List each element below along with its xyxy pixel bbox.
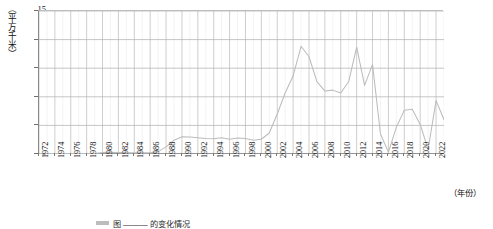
x-tick-label: 2004: [295, 142, 304, 158]
x-tick-label: 2000: [264, 142, 273, 158]
x-tick-mark: [387, 153, 388, 156]
x-tick-label: 1976: [73, 142, 82, 158]
x-tick-label: 2012: [359, 142, 368, 158]
x-tick-label: 2016: [391, 142, 400, 158]
x-tick-label: 2006: [311, 142, 320, 158]
figure-caption-text: 图 ——— 的变化情况: [113, 220, 190, 229]
chart-figure: （平方千米） 15 12 9 6 3 0 1972197419761978198…: [0, 0, 493, 229]
x-tick-label: 1984: [136, 142, 145, 158]
x-tick-mark: [38, 153, 39, 156]
chart-canvas: [39, 11, 444, 154]
x-tick-label: 1996: [232, 142, 241, 158]
x-tick-mark: [102, 153, 103, 156]
x-tick-mark: [340, 153, 341, 156]
x-tick-mark: [54, 153, 55, 156]
legend-swatch: [96, 221, 109, 225]
x-tick-mark: [229, 153, 230, 156]
x-tick-mark: [197, 153, 198, 156]
x-tick-label: 1980: [105, 142, 114, 158]
x-tick-mark: [165, 153, 166, 156]
x-tick-mark: [308, 153, 309, 156]
x-tick-label: 1998: [248, 142, 257, 158]
x-tick-label: 2002: [279, 142, 288, 158]
x-tick-label: 2010: [343, 142, 352, 158]
x-tick-label: 1994: [216, 142, 225, 158]
x-tick-mark: [276, 153, 277, 156]
x-tick-mark: [356, 153, 357, 156]
gridlines-horizontal: [39, 11, 444, 154]
x-tick-mark: [324, 153, 325, 156]
x-tick-label: 2008: [327, 142, 336, 158]
x-axis-title: （年份）: [449, 186, 481, 198]
x-tick-mark: [181, 153, 182, 156]
x-tick-mark: [244, 153, 245, 156]
x-tick-label: 2022: [438, 142, 447, 158]
x-tick-mark: [149, 153, 150, 156]
x-tick-mark: [403, 153, 404, 156]
plot-area: [38, 10, 443, 153]
x-tick-mark: [372, 153, 373, 156]
x-tick-mark: [133, 153, 134, 156]
x-tick-label: 1990: [184, 142, 193, 158]
x-tick-label: 2018: [406, 142, 415, 158]
figure-caption: 图 ——— 的变化情况: [96, 217, 396, 229]
x-tick-mark: [86, 153, 87, 156]
x-axis-labels: 1972197419761978198019821984198619881990…: [38, 155, 443, 201]
x-tick-label: 1972: [41, 142, 50, 158]
y-axis-title: （平方千米）: [1, 4, 16, 58]
x-tick-label: 2020: [422, 142, 431, 158]
x-tick-label: 1992: [200, 142, 209, 158]
x-tick-label: 1978: [89, 142, 98, 158]
x-tick-mark: [419, 153, 420, 156]
x-tick-label: 1974: [57, 142, 66, 158]
x-tick-mark: [435, 153, 436, 156]
x-tick-mark: [117, 153, 118, 156]
x-tick-mark: [260, 153, 261, 156]
x-tick-mark: [213, 153, 214, 156]
x-tick-mark: [292, 153, 293, 156]
x-tick-label: 2014: [375, 142, 384, 158]
x-tick-label: 1988: [168, 142, 177, 158]
x-tick-label: 1982: [121, 142, 130, 158]
x-tick-label: 1986: [152, 142, 161, 158]
data-line-series-0: [39, 46, 444, 153]
x-tick-mark: [70, 153, 71, 156]
